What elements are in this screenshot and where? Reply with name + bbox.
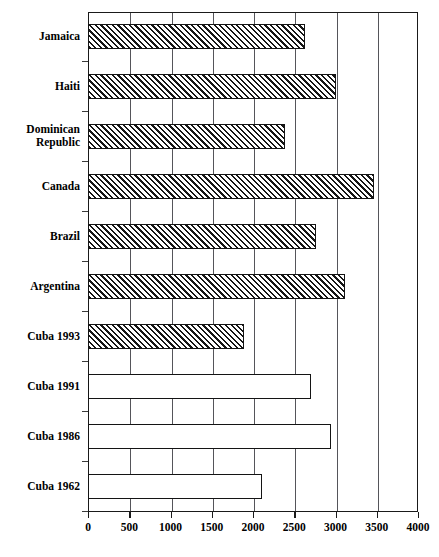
- bar-row: [88, 112, 418, 162]
- category-label-brazil: Brazil: [0, 230, 80, 243]
- chart-title-remnant: [40, 0, 420, 1]
- category-label-canada: Canada: [0, 180, 80, 193]
- x-axis-tick-labels: 05001000150020002500300035004000: [0, 521, 439, 541]
- category-label-line: Cuba 1962: [0, 480, 80, 493]
- x-tick-3500: [377, 512, 378, 518]
- bar-cuba-1993: [88, 324, 244, 349]
- bar-row: [88, 12, 418, 62]
- bar-row: [88, 62, 418, 112]
- category-label-line: Brazil: [0, 230, 80, 243]
- x-tick-label-2000: 2000: [242, 521, 265, 533]
- x-tick-1500: [212, 512, 213, 518]
- x-tick-label-3000: 3000: [324, 521, 347, 533]
- category-label-cuba-1991: Cuba 1991: [0, 380, 80, 393]
- x-tick-500: [129, 512, 130, 518]
- category-label-cuba-1993: Cuba 1993: [0, 330, 80, 343]
- category-label-line: Haiti: [0, 80, 80, 93]
- bar-row: [88, 212, 418, 262]
- category-label-jamaica: Jamaica: [0, 30, 80, 43]
- y-axis-tick: [82, 161, 88, 162]
- x-tick-0: [88, 512, 89, 518]
- x-tick-label-3500: 3500: [365, 521, 388, 533]
- x-tick-label-4000: 4000: [407, 521, 430, 533]
- x-tick-label-1000: 1000: [159, 521, 182, 533]
- bar-row: [88, 412, 418, 462]
- bar-jamaica: [88, 24, 305, 49]
- y-axis-tick: [82, 311, 88, 312]
- x-tick-4000: [418, 512, 419, 518]
- y-axis-tick: [82, 211, 88, 212]
- category-label-line: Cuba 1991: [0, 380, 80, 393]
- y-axis-tick: [82, 261, 88, 262]
- y-axis-tick: [82, 511, 88, 512]
- bar-row: [88, 162, 418, 212]
- bar-row: [88, 462, 418, 512]
- category-label-line: Argentina: [0, 280, 80, 293]
- category-label-line: Cuba 1986: [0, 430, 80, 443]
- bar-haiti: [88, 74, 336, 99]
- x-tick-label-0: 0: [85, 521, 91, 533]
- bar-brazil: [88, 224, 316, 249]
- bar-canada: [88, 174, 374, 199]
- category-label-line: Canada: [0, 180, 80, 193]
- category-label-line: Jamaica: [0, 30, 80, 43]
- bar-row: [88, 312, 418, 362]
- category-label-haiti: Haiti: [0, 80, 80, 93]
- bar-chart: JamaicaHaitiDominicanRepublicCanadaBrazi…: [0, 0, 439, 557]
- category-label-cuba-1962: Cuba 1962: [0, 480, 80, 493]
- bar-cuba-1991: [88, 374, 311, 399]
- bar-row: [88, 362, 418, 412]
- category-label-line: Republic: [0, 136, 80, 149]
- x-tick-label-1500: 1500: [200, 521, 223, 533]
- category-label-line: Cuba 1993: [0, 330, 80, 343]
- x-tick-2000: [253, 512, 254, 518]
- bar-row: [88, 262, 418, 312]
- x-axis-ticks: [88, 512, 418, 518]
- category-label-argentina: Argentina: [0, 280, 80, 293]
- bar-cuba-1962: [88, 474, 262, 499]
- bar-cuba-1986: [88, 424, 331, 449]
- category-label-dominican-republic: DominicanRepublic: [0, 123, 80, 149]
- y-axis-tick: [82, 61, 88, 62]
- y-axis-tick: [82, 411, 88, 412]
- x-tick-label-2500: 2500: [283, 521, 306, 533]
- bar-argentina: [88, 274, 345, 299]
- category-label-cuba-1986: Cuba 1986: [0, 430, 80, 443]
- x-tick-1000: [171, 512, 172, 518]
- y-axis-tick: [82, 461, 88, 462]
- category-axis-labels: JamaicaHaitiDominicanRepublicCanadaBrazi…: [0, 12, 84, 512]
- x-tick-2500: [294, 512, 295, 518]
- x-tick-3000: [336, 512, 337, 518]
- y-axis-tick: [82, 361, 88, 362]
- bar-dominican-republic: [88, 124, 285, 149]
- y-axis-tick: [82, 111, 88, 112]
- bars-container: [88, 12, 418, 512]
- x-tick-label-500: 500: [121, 521, 138, 533]
- category-label-line: Dominican: [0, 123, 80, 136]
